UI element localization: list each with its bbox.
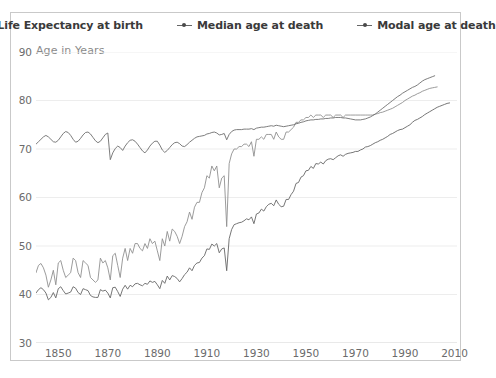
plot-area: [36, 52, 457, 343]
x-axis-tick: 1990: [392, 347, 419, 359]
x-axis-tick: 1850: [45, 347, 72, 359]
x-axis-tick: 1950: [293, 347, 320, 359]
x-axis-tick: 1870: [94, 347, 121, 359]
x-axis-tick: 1890: [144, 347, 171, 359]
x-axis-tick: 1930: [243, 347, 270, 359]
x-axis-tick: 1970: [342, 347, 369, 359]
chart-svg: [36, 52, 457, 343]
x-axis-tick: 1910: [194, 347, 221, 359]
x-axis-tick: 2010: [441, 347, 468, 359]
